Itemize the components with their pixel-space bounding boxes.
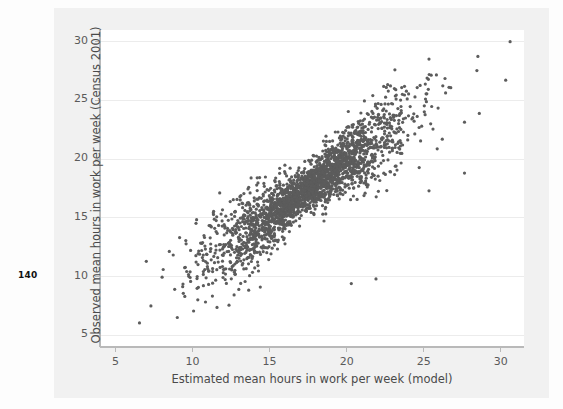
x-tick-label: 20 — [334, 355, 360, 368]
scatter-points-layer — [100, 30, 524, 347]
x-axis-title: Estimated mean hours in work per week (m… — [100, 372, 524, 386]
x-tick-label: 30 — [488, 355, 514, 368]
y-tick-label: 30 — [66, 34, 88, 47]
page-number: 140 — [18, 270, 38, 280]
y-tick-label: 20 — [66, 151, 88, 164]
plot-panel — [100, 30, 524, 347]
y-tick-label: 25 — [66, 92, 88, 105]
y-tick-label: 10 — [66, 269, 88, 282]
x-tick-label: 25 — [411, 355, 437, 368]
x-tick-label: 10 — [180, 355, 206, 368]
scatter-plot-figure: Estimated mean hours in work per week (m… — [54, 8, 549, 398]
y-axis-title: Observed mean hours in work per week (Ce… — [89, 25, 103, 345]
y-tick-label: 15 — [66, 210, 88, 223]
x-tick-label: 15 — [257, 355, 283, 368]
x-tick-label: 5 — [102, 355, 128, 368]
y-tick-label: 5 — [66, 327, 88, 340]
scanned-page: 140 Estimated mean hours in work per wee… — [0, 0, 563, 409]
